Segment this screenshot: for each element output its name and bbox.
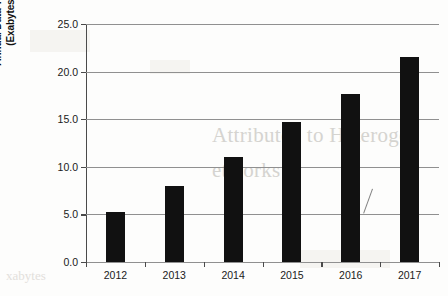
x-axis-tick-mark xyxy=(321,262,322,267)
y-axis-tick-mark xyxy=(81,24,86,25)
x-axis-tick-label: 2013 xyxy=(163,269,186,281)
x-axis-tick-mark xyxy=(380,262,381,267)
gridline xyxy=(86,72,439,73)
ghost-text-line-3: xabytes xyxy=(6,268,46,284)
y-axis-tick-mark xyxy=(81,167,86,168)
plot-area: 0.05.010.015.020.025.0 xyxy=(86,24,439,262)
x-axis-tick-label: 2016 xyxy=(339,269,362,281)
gridline xyxy=(86,119,439,120)
y-axis-tick-label: 10.0 xyxy=(58,161,78,173)
bar-2012 xyxy=(106,212,125,262)
x-axis-tick-mark xyxy=(145,262,146,267)
y-axis-title: Annual Data Traffic (Exabytes) xyxy=(0,0,17,86)
x-axis-tick-label: 2012 xyxy=(104,269,127,281)
bar-2014 xyxy=(224,157,243,262)
x-axis-tick-mark xyxy=(439,262,440,267)
y-axis-tick-label: 25.0 xyxy=(58,18,78,30)
x-axis-tick-label: 2014 xyxy=(221,269,244,281)
y-axis-tick-label: 15.0 xyxy=(58,113,78,125)
x-axis-tick-mark xyxy=(86,262,87,267)
x-axis-tick-mark xyxy=(204,262,205,267)
chart-figure: Attributed to Heterogen etworks xabytes … xyxy=(0,0,448,296)
x-axis-tick-mark xyxy=(263,262,264,267)
gridline xyxy=(86,24,439,25)
y-axis-tick-label: 0.0 xyxy=(63,256,78,268)
gridline xyxy=(86,167,439,168)
scan-smudge xyxy=(30,30,90,52)
y-axis-tick-mark xyxy=(81,72,86,73)
y-axis-tick-label: 5.0 xyxy=(63,208,78,220)
y-axis-tick-mark xyxy=(81,119,86,120)
x-axis-tick-label: 2017 xyxy=(398,269,421,281)
bar-2016 xyxy=(341,94,360,263)
y-axis-title-line-2: (Exabytes) xyxy=(5,0,18,86)
bar-2017 xyxy=(400,57,419,262)
bar-2013 xyxy=(165,186,184,262)
y-axis-tick-mark xyxy=(81,214,86,215)
x-axis-tick-label: 2015 xyxy=(280,269,303,281)
y-axis-tick-label: 20.0 xyxy=(58,66,78,78)
gridline xyxy=(86,214,439,215)
bar-2015 xyxy=(282,122,301,262)
